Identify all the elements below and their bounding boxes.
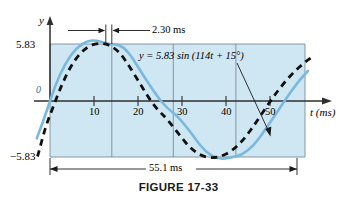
x-tick-label-40: 40 <box>221 106 232 117</box>
x-axis-arrowhead <box>322 97 332 104</box>
x-tick-label-50: 50 <box>265 106 276 117</box>
figure-caption: FIGURE 17-33 <box>0 181 357 193</box>
x-axis-label: t (ms) <box>310 106 335 118</box>
period-label: 55.1 ms <box>149 162 182 173</box>
y-axis-label: y <box>39 14 44 26</box>
phase-shift-dimension <box>68 25 150 45</box>
y-axis-arrowhead <box>47 16 54 25</box>
x-tick-label-20: 20 <box>133 106 144 117</box>
figure-container: y t (ms) 5.83 −5.83 0 10 20 30 40 50 2.3… <box>0 0 357 203</box>
period-dim-arrow-right <box>290 166 298 172</box>
phase-shift-label: 2.30 ms <box>152 24 185 35</box>
phase-dim-arrow-left <box>99 28 106 33</box>
x-tick-label-10: 10 <box>89 106 100 117</box>
phase-dim-arrow-right <box>112 28 119 33</box>
x-tick-label-30: 30 <box>177 106 188 117</box>
y-max-tick-label: 5.83 <box>16 38 35 50</box>
y-min-tick-label: −5.83 <box>10 150 35 162</box>
equation-annotation: y = 5.83 sin (114t + 15°) <box>139 50 244 61</box>
period-dim-arrow-left <box>50 166 58 172</box>
origin-label: 0 <box>36 84 41 95</box>
